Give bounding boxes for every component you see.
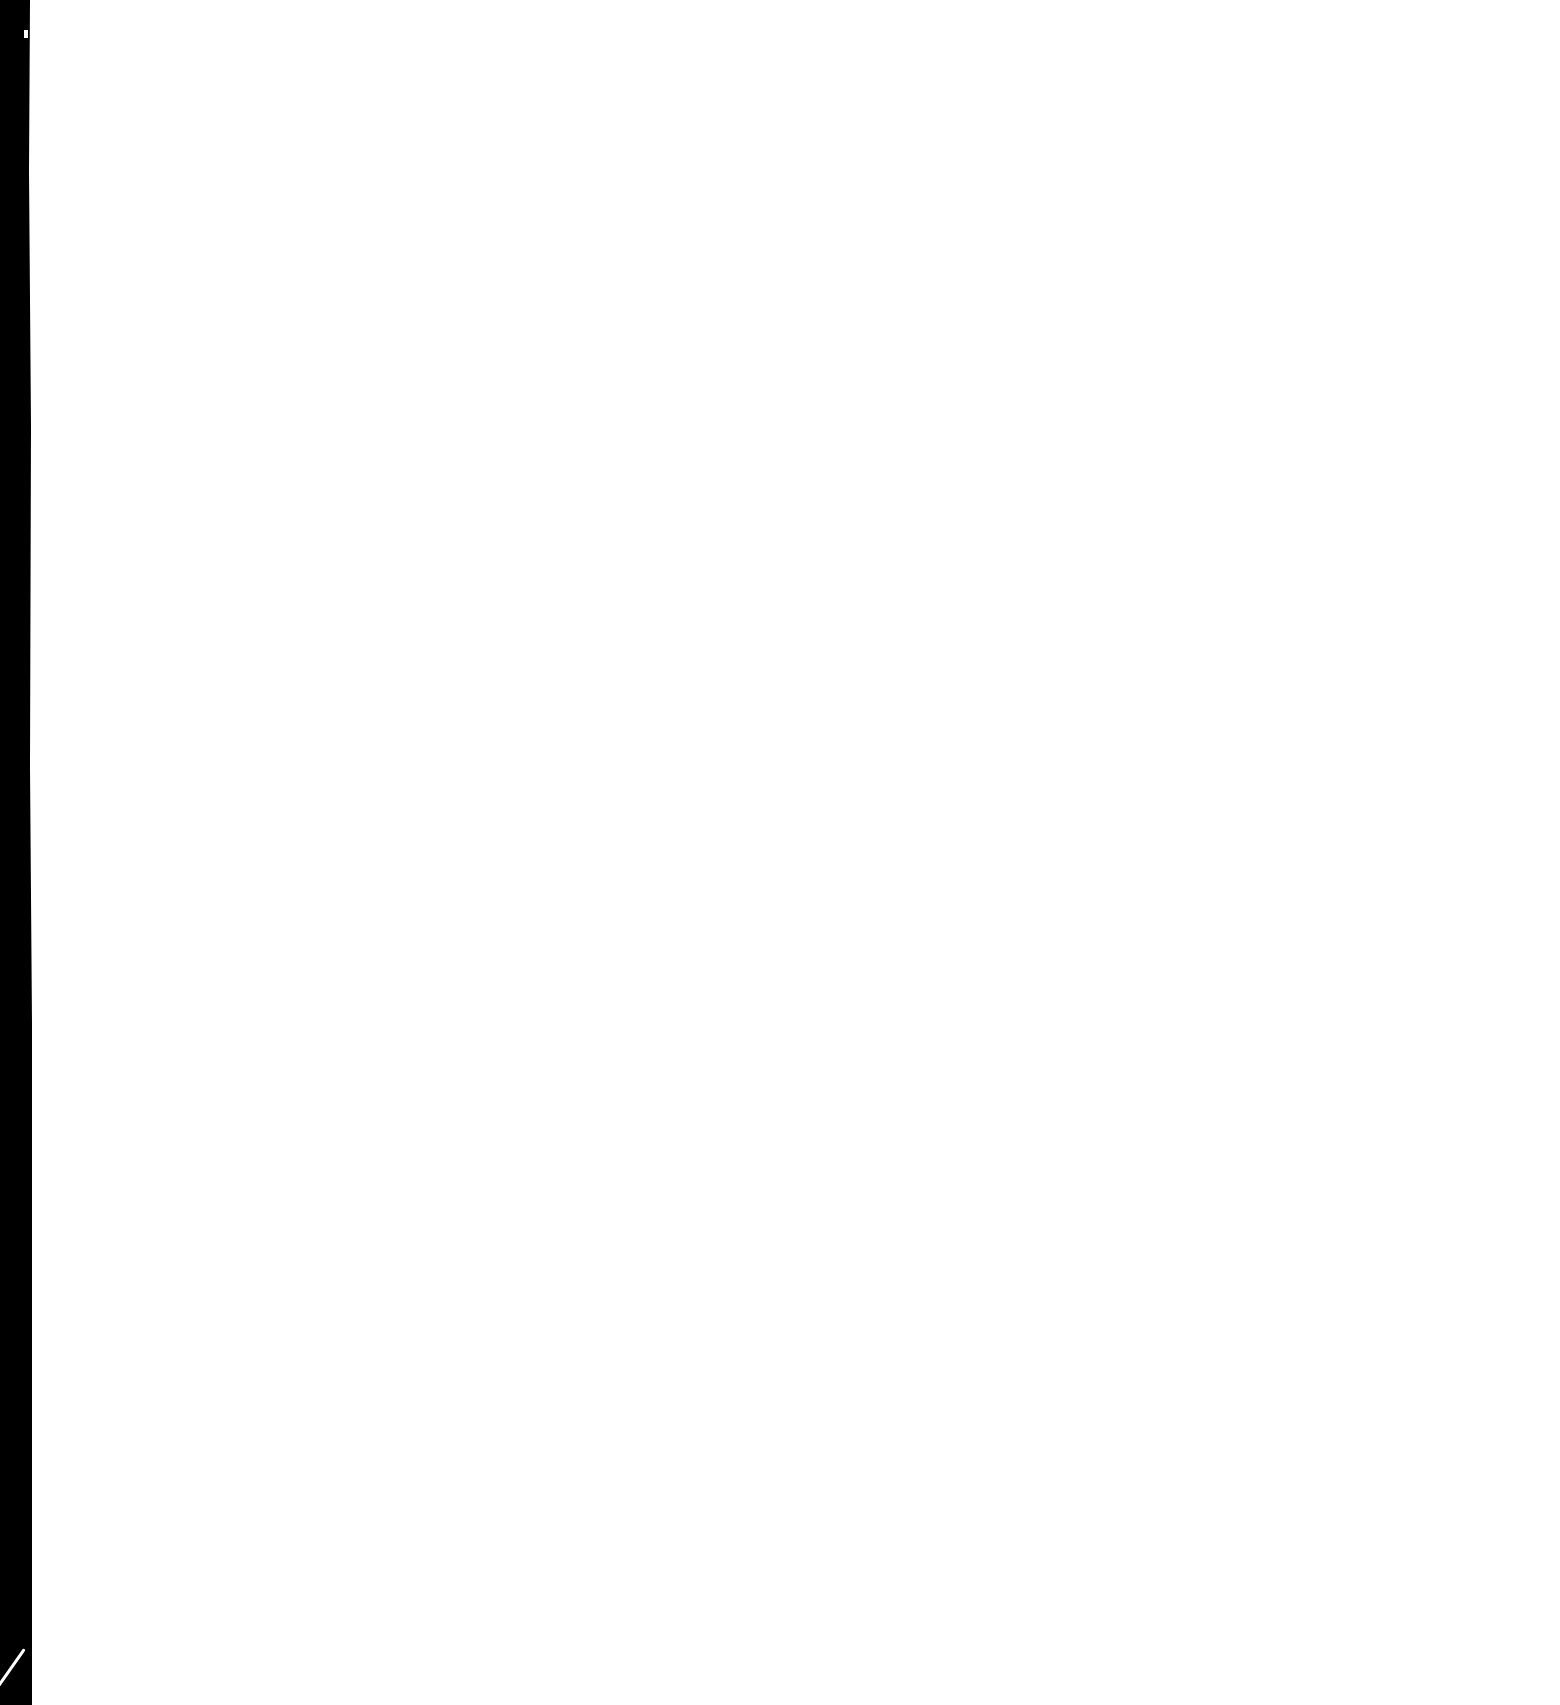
scan-border-left [0, 0, 32, 1705]
scan-artifact [24, 30, 28, 38]
blank-page [36, 0, 1560, 1705]
